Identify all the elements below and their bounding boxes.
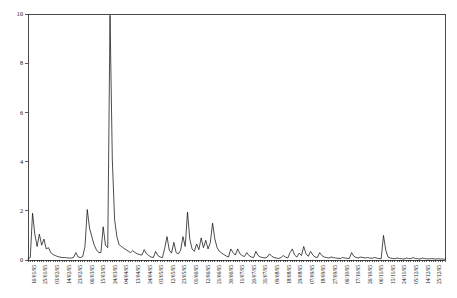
x-tick-label: 24/11/95 — [401, 265, 407, 284]
x-tick-label: 25/01/95 — [42, 265, 48, 284]
x-axis-labels: 16/01/9525/01/9503/02/9514/02/9523/02/95… — [31, 265, 442, 284]
x-tick-label: 15/11/95 — [390, 265, 396, 284]
x-tick-label: 27/09/95 — [332, 265, 338, 284]
x-tick-label: 26/10/95 — [367, 265, 373, 284]
x-tick-label: 23/05/95 — [181, 265, 187, 284]
x-tick-label: 24/04/95 — [147, 265, 153, 284]
plot-area: 16/01/9525/01/9503/02/9514/02/9523/02/95… — [0, 0, 457, 298]
plot-frame — [28, 14, 445, 260]
x-tick-label: 29/08/95 — [297, 265, 303, 284]
x-tick-label: 04/04/95 — [123, 265, 129, 284]
x-tick-label: 31/07/95 — [262, 265, 268, 284]
y-tick-label: 2 — [20, 207, 23, 214]
x-tick-label: 23/02/95 — [77, 265, 83, 284]
x-tick-label: 01/06/95 — [193, 265, 199, 284]
y-tick-label: 4 — [20, 158, 23, 165]
y-tick-label: 8 — [20, 59, 23, 66]
x-tick-label: 06/03/95 — [89, 265, 95, 284]
x-tick-label: 21/06/95 — [216, 265, 222, 284]
y-tick-label: 10 — [17, 10, 23, 17]
x-tick-label: 12/05/95 — [170, 265, 176, 284]
x-tick-label: 06/10/95 — [344, 265, 350, 284]
x-tick-label: 13/04/95 — [135, 265, 141, 284]
x-tick-label: 07/09/95 — [309, 265, 315, 284]
x-tick-label: 18/08/95 — [286, 265, 292, 284]
x-tick-label: 14/02/95 — [66, 265, 72, 284]
y-tick-label: 6 — [20, 109, 23, 116]
x-tick-label: 16/01/95 — [31, 265, 37, 284]
x-tick-label: 18/09/95 — [320, 265, 326, 284]
x-tick-label: 09/08/95 — [274, 265, 280, 284]
x-tick-label: 17/10/95 — [355, 265, 361, 284]
x-tick-label: 03/05/95 — [158, 265, 164, 284]
x-tick-label: 12/06/95 — [205, 265, 211, 284]
x-tick-label: 14/12/95 — [425, 265, 431, 284]
y-axis-ticks — [25, 14, 28, 260]
x-tick-label: 15/03/95 — [100, 265, 106, 284]
x-tick-label: 24/03/95 — [112, 265, 118, 284]
y-axis-labels: 0246810 — [17, 10, 23, 263]
data-series-line — [28, 15, 445, 259]
x-tick-label: 06/11/95 — [378, 265, 384, 284]
x-tick-label: 03/02/95 — [54, 265, 60, 284]
y-tick-label: 0 — [20, 256, 23, 263]
x-tick-label: 05/12/95 — [413, 265, 419, 284]
x-tick-label: 30/06/95 — [228, 265, 234, 284]
x-tick-label: 25/12/95 — [436, 265, 442, 284]
line-chart: 16/01/9525/01/9503/02/9514/02/9523/02/95… — [0, 0, 457, 298]
x-tick-label: 11/07/95 — [239, 265, 245, 284]
x-tick-label: 20/07/95 — [251, 265, 257, 284]
